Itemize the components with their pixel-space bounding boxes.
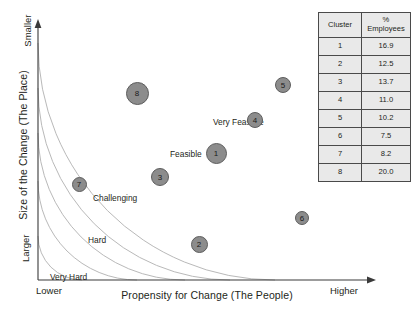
bubble-cluster-8: 8 bbox=[126, 82, 149, 105]
cell-cluster: 8 bbox=[319, 164, 362, 182]
table-row: 313.7 bbox=[319, 74, 411, 92]
arc-very-feasible bbox=[38, 43, 275, 280]
cell-pct-employees: 10.2 bbox=[362, 110, 411, 128]
cell-cluster: 2 bbox=[319, 56, 362, 74]
bubble-cluster-6: 6 bbox=[295, 211, 309, 225]
table-row: 212.5 bbox=[319, 56, 411, 74]
table-body: 116.9212.5313.7411.0510.267.578.2820.0 bbox=[319, 38, 411, 182]
cell-pct-employees: 16.9 bbox=[362, 38, 411, 56]
table-row: 116.9 bbox=[319, 38, 411, 56]
bubble-cluster-7: 7 bbox=[72, 177, 87, 192]
cell-pct-employees: 13.7 bbox=[362, 74, 411, 92]
zone-label-challenging: Challenging bbox=[93, 193, 137, 203]
table-row: 411.0 bbox=[319, 92, 411, 110]
header-pct-line2: Employees bbox=[367, 24, 405, 33]
x-axis-low-label: Lower bbox=[36, 285, 62, 296]
cell-pct-employees: 20.0 bbox=[362, 164, 411, 182]
header-pct-employees: % Employees bbox=[362, 13, 411, 38]
header-pct-line1: % bbox=[383, 15, 390, 24]
zone-label-hard: Hard bbox=[88, 235, 106, 245]
feasibility-arcs bbox=[38, 43, 275, 280]
bubble-cluster-3: 3 bbox=[151, 168, 169, 186]
x-axis-arrowhead bbox=[367, 277, 376, 284]
bubble-cluster-1: 1 bbox=[206, 143, 227, 164]
cell-cluster: 5 bbox=[319, 110, 362, 128]
cell-cluster: 4 bbox=[319, 92, 362, 110]
x-axis-high-label: Higher bbox=[330, 285, 358, 296]
table-row: 67.5 bbox=[319, 128, 411, 146]
table-header-row: Cluster % Employees bbox=[319, 13, 411, 38]
cell-pct-employees: 11.0 bbox=[362, 92, 411, 110]
arc-challenging bbox=[38, 133, 185, 280]
y-axis-top-label: Smaller bbox=[22, 15, 33, 73]
table-row: 820.0 bbox=[319, 164, 411, 182]
cell-cluster: 3 bbox=[319, 74, 362, 92]
y-axis-bottom-label: Larger bbox=[20, 235, 31, 293]
zone-label-feasible: Feasible bbox=[170, 149, 202, 159]
cell-cluster: 6 bbox=[319, 128, 362, 146]
cell-pct-employees: 7.5 bbox=[362, 128, 411, 146]
cell-cluster: 7 bbox=[319, 146, 362, 164]
bubble-cluster-4: 4 bbox=[247, 112, 263, 128]
header-cluster: Cluster bbox=[319, 13, 362, 38]
table-row: 78.2 bbox=[319, 146, 411, 164]
cell-pct-employees: 12.5 bbox=[362, 56, 411, 74]
zone-label-very-hard: Very Hard bbox=[50, 272, 87, 282]
y-axis-arrowhead bbox=[35, 19, 42, 28]
cluster-employee-table: Cluster % Employees 116.9212.5313.7411.0… bbox=[318, 12, 411, 182]
feasibility-bubble-chart: Propensity for Change (The People) Size … bbox=[0, 0, 414, 309]
bubble-cluster-2: 2 bbox=[191, 236, 208, 253]
table-row: 510.2 bbox=[319, 110, 411, 128]
bubble-cluster-5: 5 bbox=[275, 77, 291, 93]
cell-pct-employees: 8.2 bbox=[362, 146, 411, 164]
cell-cluster: 1 bbox=[319, 38, 362, 56]
